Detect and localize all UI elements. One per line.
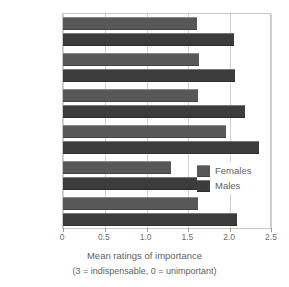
- x-tick-label: 1.0: [140, 232, 152, 242]
- bar-iran-females: [63, 53, 199, 66]
- bar-group: [63, 51, 270, 85]
- gridline: [271, 14, 272, 228]
- bar-china-females: [63, 17, 197, 30]
- legend-label-males: Males: [215, 180, 240, 191]
- bar-bulgaria-females: [63, 125, 226, 138]
- bar-group: [63, 87, 270, 121]
- bar-group: [63, 123, 270, 157]
- legend: Females Males: [197, 162, 253, 194]
- x-tick-label: 0.5: [98, 232, 110, 242]
- bar-venezuela-females: [63, 161, 171, 174]
- x-tick-label: 2.0: [223, 232, 235, 242]
- x-axis-subtitle: (3 = indispensable, 0 = unimportant): [0, 266, 289, 276]
- legend-swatch-males-icon: [197, 180, 210, 192]
- bar-bulgaria-males: [63, 141, 259, 154]
- bar-iran-males: [63, 69, 235, 82]
- legend-label-females: Females: [215, 165, 251, 176]
- bar-china-males: [63, 33, 234, 46]
- plot-area: [62, 13, 271, 229]
- bar-zambia-females: [63, 89, 198, 102]
- bar-zambia-males: [63, 105, 245, 118]
- x-tick-label: 0: [60, 232, 65, 242]
- bar-chart: ChinaIranZambiaBulgariaVenezuelaUSA 00.5…: [0, 0, 289, 287]
- legend-item-males: Males: [197, 179, 251, 192]
- bar-group: [63, 195, 270, 229]
- x-tick-label: 2.5: [265, 232, 277, 242]
- bar-usa-females: [63, 197, 198, 210]
- x-tick-label: 1.5: [181, 232, 193, 242]
- legend-item-females: Females: [197, 164, 251, 177]
- x-axis-title: Mean ratings of importance: [0, 250, 289, 261]
- bar-venezuela-males: [63, 177, 212, 190]
- legend-swatch-females-icon: [197, 165, 210, 177]
- bar-usa-males: [63, 213, 237, 226]
- bar-group: [63, 15, 270, 49]
